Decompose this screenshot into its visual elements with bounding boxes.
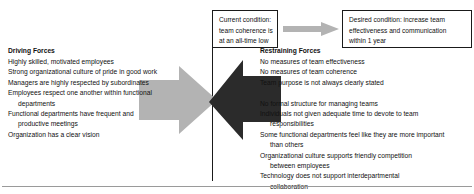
desired-condition-line-3: within 1 year — [349, 36, 466, 47]
desired-condition-line-1: Desired condition: increase team — [349, 15, 466, 26]
driving-force-text: Organization has a clear vision — [8, 131, 99, 138]
restraining-force-text: Team purpose is not always clearly state… — [260, 79, 384, 86]
driving-force-text: Managers are highly respected by subordi… — [8, 79, 149, 86]
driving-force-item: Highly skilled, motivated employees — [8, 57, 208, 67]
restraining-force-text-cont: between employees — [260, 161, 474, 171]
transition-arrow-icon — [283, 22, 339, 36]
restraining-force-text: No measures of team effectiveness — [260, 58, 365, 65]
driving-force-item: Managers are highly respected by subordi… — [8, 78, 208, 88]
driving-force-item: Functional departments have frequent and… — [8, 109, 208, 130]
restraining-force-item: No measures of team coherence — [260, 67, 474, 77]
current-condition-line-1: Current condition: — [219, 15, 272, 26]
restraining-forces-group-spacer — [260, 88, 474, 98]
desired-condition-box: Desired condition: increase team effecti… — [342, 10, 472, 48]
bottom-divider-rule — [2, 186, 472, 187]
driving-force-item: Employees respect one another within fun… — [8, 88, 208, 109]
current-condition-line-2: team coherence is — [219, 26, 272, 37]
restraining-force-item: No formal structure for managing teams — [260, 99, 474, 109]
current-condition-box: Current condition: team coherence is at … — [212, 10, 278, 48]
restraining-force-item: No measures of team effectiveness — [260, 57, 474, 67]
driving-force-item: Strong organizational culture of pride i… — [8, 67, 208, 77]
restraining-force-text: Organizational culture supports friendly… — [260, 152, 412, 159]
restraining-force-item: Team purpose is not always clearly state… — [260, 78, 474, 88]
restraining-forces-heading: Restraining Forces — [260, 46, 474, 56]
restraining-forces-column: Restraining Forces No measures of team e… — [260, 46, 474, 192]
driving-force-text: Strong organizational culture of pride i… — [8, 68, 157, 75]
driving-force-text-cont: productive meetings — [8, 119, 208, 129]
driving-forces-column: Driving Forces Highly skilled, motivated… — [8, 46, 208, 140]
restraining-force-item: Organizational culture supports friendly… — [260, 151, 474, 172]
restraining-force-text: No formal structure for managing teams — [260, 100, 378, 107]
driving-force-text: Employees respect one another within fun… — [8, 89, 152, 96]
driving-force-text: Functional departments have frequent and — [8, 110, 134, 117]
restraining-force-item: Technology does not support interdepartm… — [260, 171, 474, 192]
restraining-force-item: Some functional departments feel like th… — [260, 130, 474, 151]
desired-condition-line-2: effectiveness and communication — [349, 26, 466, 37]
driving-force-item: Organization has a clear vision — [8, 130, 208, 140]
restraining-force-text: Technology does not support interdepartm… — [260, 172, 399, 179]
driving-force-text-cont: departments — [8, 99, 208, 109]
restraining-force-text: Some functional departments feel like th… — [260, 131, 444, 138]
current-condition-line-3: at an all-time low — [219, 36, 272, 47]
restraining-force-text-cont: than others — [260, 140, 474, 150]
restraining-force-text: Individuals not given adequate time to d… — [260, 110, 418, 117]
restraining-force-text-cont: responsibilities — [260, 119, 474, 129]
force-field-diagram: Current condition: team coherence is at … — [0, 0, 474, 194]
restraining-force-text: No measures of team coherence — [260, 68, 357, 75]
driving-force-text: Highly skilled, motivated employees — [8, 58, 114, 65]
driving-forces-heading: Driving Forces — [8, 46, 208, 56]
restraining-force-item: Individuals not given adequate time to d… — [260, 109, 474, 130]
